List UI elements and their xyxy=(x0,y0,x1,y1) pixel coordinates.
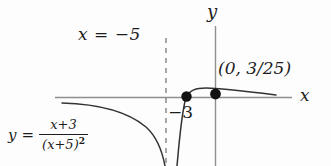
curve-right-branch xyxy=(177,88,276,166)
asymptote-label: x = −5 xyxy=(78,26,141,43)
equation-lhs: y xyxy=(8,126,16,144)
function-graph-figure: x = −5 y x (0, 3/25) −3 y = x+3 (x+5)2 xyxy=(0,0,331,166)
fraction-numerator: x+3 xyxy=(47,118,80,134)
equation-fraction: x+3 (x+5)2 xyxy=(39,118,88,152)
function-equation: y = x+3 (x+5)2 xyxy=(8,118,88,152)
equation-equals-sign: = xyxy=(21,126,34,144)
y-axis-label: y xyxy=(207,3,217,21)
x-intercept-value-label: −3 xyxy=(168,104,193,121)
x-intercept-point-marker xyxy=(181,91,191,101)
denominator-exponent: 2 xyxy=(79,136,85,146)
fraction-denominator: (x+5)2 xyxy=(39,134,88,153)
x-axis-label: x xyxy=(300,87,310,104)
y-intercept-point-marker xyxy=(210,89,221,100)
y-intercept-coordinate-label: (0, 3/25) xyxy=(218,60,291,77)
denominator-base: (x+5) xyxy=(42,137,79,152)
